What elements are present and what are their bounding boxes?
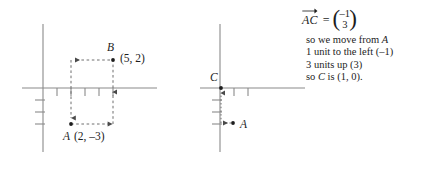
solution-prose: so we move from A 1 unit to the left (–1… <box>306 34 428 84</box>
equals-sign: = <box>323 12 330 26</box>
vector-component-y: 3 <box>342 19 347 30</box>
solution-text-block: AC = ( –1 3 ) so we move from A 1 unit t… <box>296 6 428 84</box>
point-A <box>69 122 73 126</box>
graph-left: B (5, 2) A (2, –3) <box>22 24 157 152</box>
point-C <box>219 86 223 90</box>
coords-B: (5, 2) <box>120 52 145 65</box>
vector-equation-row: AC = ( –1 3 ) <box>302 6 428 32</box>
column-vector: ( –1 3 ) <box>334 8 357 30</box>
solution-line-2: 1 unit to the left (–1) <box>306 46 428 58</box>
solution-line-1: so we move from A <box>306 34 428 46</box>
label-C: C <box>210 71 218 83</box>
point-B <box>111 58 115 62</box>
label-A-right: A <box>239 118 248 130</box>
graph-right: C A <box>200 24 305 152</box>
vector-label-AC: AC <box>302 12 318 26</box>
label-B: B <box>107 41 114 53</box>
point-A-right <box>231 121 235 125</box>
solution-line-4: so C is (1, 0). <box>306 71 428 83</box>
worked-solution-figure: B (5, 2) A (2, –3) C A AC <box>0 0 430 169</box>
solution-line-3: 3 units up (3) <box>306 59 428 71</box>
coords-A: (2, –3) <box>74 130 105 143</box>
label-A: A <box>62 130 71 142</box>
